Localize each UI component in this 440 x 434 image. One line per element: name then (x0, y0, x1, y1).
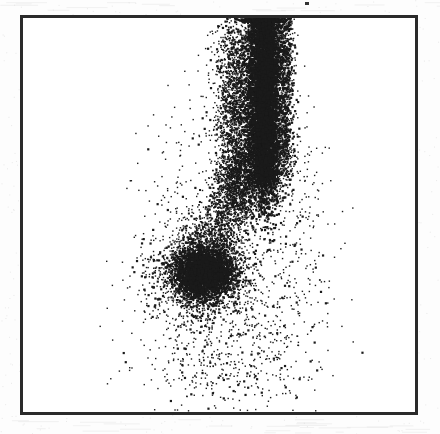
scatter-plot-canvas (23, 18, 415, 412)
scan-speck-artifact (305, 2, 309, 5)
plot-frame (20, 15, 418, 415)
figure-root (0, 0, 440, 434)
